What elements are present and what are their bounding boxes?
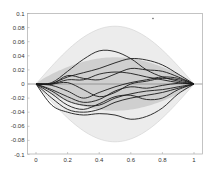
x-tick-label: 0.4 [95,157,104,163]
y-tick-label: 0.04 [13,53,25,59]
y-tick-label: -0.1 [14,152,25,158]
y-tick-label: 0.02 [13,67,25,73]
y-tick-label: 0.1 [16,11,25,17]
y-tick-label: -0.06 [11,123,25,129]
x-tick-label: 0.2 [63,157,72,163]
y-tick-label: -0.02 [11,95,25,101]
marker-dot [152,18,153,19]
y-tick-label: -0.04 [11,109,25,115]
y-tick-label: 0.06 [13,39,25,45]
line-chart: 0.10.080.060.040.020-0.02-0.04-0.06-0.08… [0,0,214,172]
x-tick-label: 0.6 [127,157,136,163]
y-tick-label: -0.08 [11,137,25,143]
x-tick-label: 0.8 [158,157,167,163]
y-tick-label: 0.08 [13,25,25,31]
